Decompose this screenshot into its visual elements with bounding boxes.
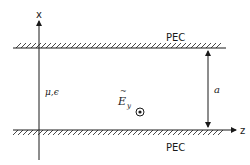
medium-label: μ,ϵ xyxy=(45,87,59,97)
parallel-plate-waveguide-diagram: x z PEC PEC μ,ϵ a ~ E y xyxy=(0,0,250,165)
out-of-page-icon xyxy=(136,108,144,116)
field-subscript: y xyxy=(126,102,132,110)
x-axis-label: x xyxy=(36,9,42,20)
bottom-hatching xyxy=(13,130,223,135)
field-label: ~ E y xyxy=(117,87,132,110)
top-pec-plate xyxy=(13,43,226,48)
top-hatching xyxy=(16,43,221,48)
bottom-pec-plate xyxy=(13,130,223,135)
z-axis-label: z xyxy=(240,125,245,136)
bottom-pec-label: PEC xyxy=(166,142,185,153)
top-pec-label: PEC xyxy=(166,32,185,43)
field-symbol: E xyxy=(117,95,126,108)
separation-label: a xyxy=(214,84,220,95)
